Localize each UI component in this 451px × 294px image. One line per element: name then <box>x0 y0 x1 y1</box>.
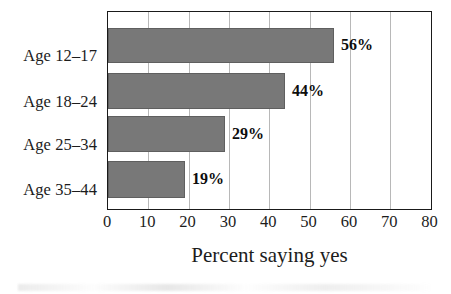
x-tick-50: 50 <box>300 214 317 231</box>
x-tick-40: 40 <box>260 214 277 231</box>
x-tick-10: 10 <box>139 214 156 231</box>
scan-artifact <box>18 284 433 291</box>
value-label-age-25-34: 29% <box>232 126 264 142</box>
x-axis-title: Percent saying yes <box>107 245 432 266</box>
x-tick-60: 60 <box>341 214 358 231</box>
x-tick-80: 80 <box>421 214 438 231</box>
x-tick-0: 0 <box>103 214 111 231</box>
bar-age-12-17 <box>108 28 334 63</box>
plot-area: 56% 44% 29% 19% <box>107 11 432 210</box>
value-label-age-35-44: 19% <box>192 171 224 187</box>
category-label-age-18-24: Age 18–24 <box>23 94 97 111</box>
x-tick-70: 70 <box>381 214 398 231</box>
x-tick-30: 30 <box>220 214 237 231</box>
value-label-age-12-17: 56% <box>341 37 373 53</box>
bar-age-18-24 <box>108 73 285 109</box>
bar-age-35-44 <box>108 161 185 198</box>
x-axis-tick-labels: 0 10 20 30 40 50 60 70 80 <box>107 214 432 238</box>
value-label-age-18-24: 44% <box>292 83 324 99</box>
bar-age-25-34 <box>108 116 225 152</box>
category-label-age-12-17: Age 12–17 <box>23 48 97 65</box>
bars-layer: 56% 44% 29% 19% <box>108 12 431 209</box>
category-label-age-25-34: Age 25–34 <box>23 137 97 154</box>
category-label-age-35-44: Age 35–44 <box>23 182 97 199</box>
x-tick-20: 20 <box>179 214 196 231</box>
bar-chart: Age 12–17 Age 18–24 Age 25–34 Age 35–44 … <box>0 0 451 294</box>
category-axis-labels: Age 12–17 Age 18–24 Age 25–34 Age 35–44 <box>0 11 101 210</box>
